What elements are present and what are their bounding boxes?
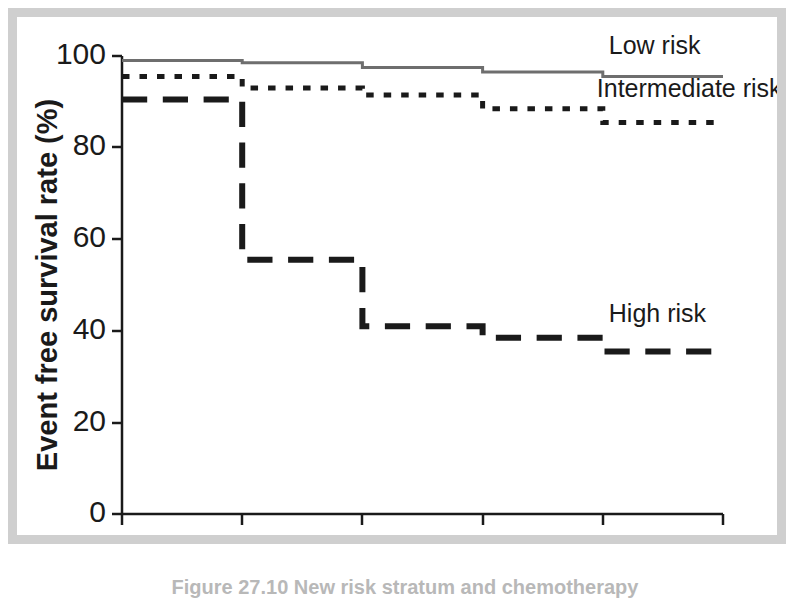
series-label-intermediate-risk: Intermediate risk <box>597 74 777 102</box>
figure-caption-strip: Figure 27.10 New risk stratum and chemot… <box>0 552 810 600</box>
series-layer: Low risk Intermediate risk High risk <box>17 17 777 535</box>
figure-caption: Figure 27.10 New risk stratum and chemot… <box>0 576 810 599</box>
figure-frame: 100 80 60 40 20 0 Event free survival ra… <box>8 8 786 544</box>
series-label-low-risk: Low risk <box>609 31 701 59</box>
kaplan-meier-chart: 100 80 60 40 20 0 Event free survival ra… <box>17 17 777 535</box>
series-label-high-risk: High risk <box>609 299 707 327</box>
figure-inner-panel: 100 80 60 40 20 0 Event free survival ra… <box>17 17 777 535</box>
